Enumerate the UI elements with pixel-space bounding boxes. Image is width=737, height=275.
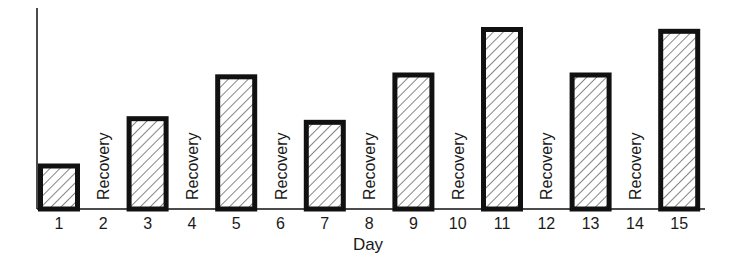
x-tick-labels: 123456789101112131415 — [55, 215, 689, 232]
recovery-label: Recovery — [184, 132, 201, 200]
bar-day-11 — [484, 30, 521, 210]
x-tick-label: 5 — [232, 215, 241, 232]
recovery-label: Recovery — [450, 132, 467, 200]
x-tick-label: 11 — [494, 215, 511, 232]
x-tick-label: 10 — [449, 215, 467, 232]
x-axis-title: Day — [353, 235, 384, 254]
x-tick-label: 12 — [537, 215, 555, 232]
recovery-labels: RecoveryRecoveryRecoveryRecoveryRecovery… — [95, 132, 644, 200]
recovery-label: Recovery — [627, 132, 644, 200]
bar-day-9 — [395, 75, 432, 209]
bar-day-15 — [661, 31, 698, 209]
x-tick-label: 14 — [626, 215, 644, 232]
x-tick-label: 9 — [409, 215, 418, 232]
recovery-label: Recovery — [273, 132, 290, 200]
x-tick-label: 6 — [276, 215, 285, 232]
x-tick-label: 7 — [320, 215, 329, 232]
bar-day-7 — [306, 122, 343, 209]
x-tick-label: 13 — [582, 215, 600, 232]
x-tick-label: 3 — [143, 215, 152, 232]
recovery-label: Recovery — [361, 132, 378, 200]
recovery-label: Recovery — [538, 132, 555, 200]
bar-chart: 123456789101112131415 RecoveryRecoveryRe… — [0, 0, 737, 275]
x-tick-label: 4 — [187, 215, 196, 232]
x-tick-label: 15 — [670, 215, 688, 232]
recovery-label: Recovery — [95, 132, 112, 200]
bar-day-5 — [218, 77, 255, 209]
bar-day-1 — [41, 166, 78, 209]
x-tick-label: 8 — [365, 215, 374, 232]
x-tick-label: 2 — [99, 215, 108, 232]
bar-day-13 — [572, 75, 609, 209]
x-tick-label: 1 — [55, 215, 64, 232]
bar-day-3 — [129, 119, 166, 209]
